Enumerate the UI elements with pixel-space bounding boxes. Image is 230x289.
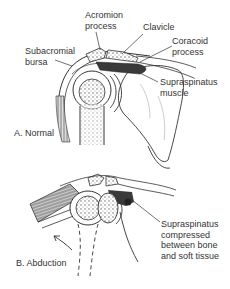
abduction-arrow <box>54 236 72 250</box>
clavicle-bone <box>106 50 138 62</box>
label-acromion-process: Acromion process <box>85 10 123 31</box>
acromion-bone <box>86 48 106 62</box>
label-coracoid-process: Coracoid process <box>172 36 208 57</box>
caption-a-normal: A. Normal <box>14 128 54 139</box>
label-supraspinatus-compressed: Supraspinatus compressed between bone an… <box>161 219 219 261</box>
panel-b-abduction <box>30 146 176 276</box>
caption-b-abduction: B. Abduction <box>16 258 67 269</box>
label-subacromial-bursa: Subacromial bursa <box>25 46 75 67</box>
label-clavicle: Clavicle <box>143 22 175 33</box>
label-supraspinatus-muscle: Supraspinatus muscle <box>160 77 218 98</box>
